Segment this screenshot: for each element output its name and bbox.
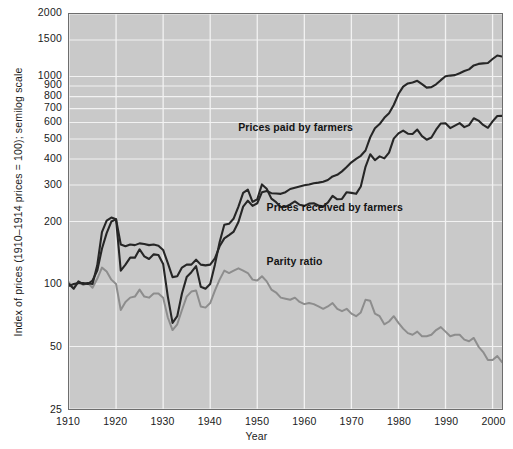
y-axis-tick-label: 500 <box>0 132 62 144</box>
series-label-prices-paid-by-farmers: Prices paid by farmers <box>238 121 353 133</box>
y-axis-tick-label: 25 <box>0 403 62 415</box>
series-label-prices-received-by-farmers: Prices received by farmers <box>267 201 403 213</box>
y-axis-tick-label: 600 <box>0 115 62 127</box>
series-line <box>69 268 502 363</box>
series-line <box>69 116 502 323</box>
series-line <box>69 56 502 286</box>
chart-container: 2000150010009008007006005004003002001005… <box>0 0 513 449</box>
y-axis-tick-label: 200 <box>0 215 62 227</box>
y-axis-tick-label: 1500 <box>0 32 62 44</box>
series-label-parity-ratio: Parity ratio <box>267 255 323 267</box>
x-axis-tick-label: 2000 <box>464 415 513 427</box>
y-axis-title: Index of prices (1910–1914 prices = 100)… <box>12 52 24 352</box>
y-axis-tick-label: 50 <box>0 340 62 352</box>
y-axis-tick-labels: 2000150010009008007006005004003002001005… <box>0 0 64 449</box>
y-axis-tick-label: 2000 <box>0 6 62 18</box>
y-axis-tick-label: 300 <box>0 178 62 190</box>
y-axis-tick-label: 700 <box>0 101 62 113</box>
y-axis-tick-label: 400 <box>0 152 62 164</box>
y-axis-tick-label: 100 <box>0 277 62 289</box>
y-axis-tick-label: 800 <box>0 89 62 101</box>
x-axis-title: Year <box>0 430 513 442</box>
